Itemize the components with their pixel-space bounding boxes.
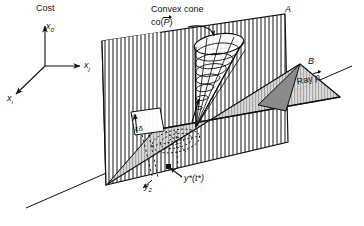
y2-label: y2 xyxy=(144,182,152,193)
axis-xj-subscript: j xyxy=(89,65,90,72)
axis-x0-subscript: 0 xyxy=(51,26,54,33)
axis-xi-line xyxy=(16,66,45,94)
axis-x0-label: x0 xyxy=(46,22,54,33)
convex-cone-label-line2: co(P) xyxy=(151,18,173,27)
axis-xi-subscript: i xyxy=(12,98,13,105)
plane-a-label: A xyxy=(285,5,291,14)
axis-xj-label: xj xyxy=(84,61,90,72)
axis-triad xyxy=(16,26,80,94)
convex-cone-label-line1: Convex cone xyxy=(151,5,204,14)
y-label: y xyxy=(132,113,136,121)
axis-xi-label: xi xyxy=(7,94,13,105)
y-star-point xyxy=(166,164,171,169)
ray-p-vector-arrowhead xyxy=(317,69,321,74)
co-prefix: co( xyxy=(151,17,164,27)
convex-cone-diagram: Cost x0 xj xi Convex cone co(P) A B Ray … xyxy=(0,0,364,226)
eps-delta-label: εδ xyxy=(135,125,143,133)
p-vector-arrowhead xyxy=(169,15,172,19)
y-star-leader xyxy=(170,168,182,177)
y-star-label: y*(t*) xyxy=(184,174,204,183)
y2-subscript: 2 xyxy=(149,186,152,193)
plane-b-label: B xyxy=(308,57,314,66)
diagram-canvas xyxy=(0,0,364,226)
cost-axis-label: Cost xyxy=(36,4,55,13)
